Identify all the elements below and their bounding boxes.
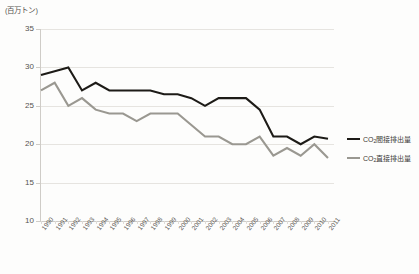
legend-item-indirect[interactable]: CO2間接排出量	[347, 134, 411, 144]
emissions-line-chart: (百万トン) 101520253035 19901991199219931994…	[0, 0, 419, 274]
series-line-indirect	[41, 67, 328, 144]
series-line-direct	[41, 83, 328, 158]
legend-swatch-direct	[347, 157, 360, 159]
legend-swatch-indirect	[347, 138, 360, 140]
legend-label: CO2直接排出量	[363, 153, 411, 163]
legend-label: CO2間接排出量	[363, 134, 411, 144]
legend-item-direct[interactable]: CO2直接排出量	[347, 153, 411, 163]
